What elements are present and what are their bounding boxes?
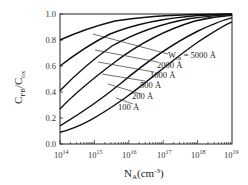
- x-axis-title: NA(cm-3): [124, 167, 164, 181]
- label-100A: 100 Å: [118, 102, 140, 112]
- x-tick-0: 1014: [54, 149, 69, 160]
- curve-labels: Wox = 5000 Å 2000 Å 1000 Å 500 Å 200 Å 1…: [118, 50, 217, 112]
- plot-frame: [60, 14, 232, 144]
- x-tick-5: 1019: [224, 149, 239, 160]
- label-500A: 500 Å: [140, 80, 162, 90]
- leader-500A: [102, 74, 145, 81]
- x-tick-1: 1015: [88, 149, 103, 160]
- x-axis-ticks: [60, 140, 230, 144]
- label-1000A: 1000 Å: [150, 70, 176, 80]
- label-200A: 200 Å: [132, 91, 154, 101]
- curve-100A: [60, 22, 232, 133]
- x-tick-3: 1017: [157, 149, 172, 160]
- curve-200A: [60, 18, 232, 126]
- capacitance-ratio-chart: 0.0 0.2 0.4 0.6 0.8 1.0 1014 1015 1016 1…: [0, 0, 248, 185]
- y-tick-labels: 0.0 0.2 0.4 0.6 0.8 1.0: [45, 9, 56, 149]
- x-tick-2: 1016: [122, 149, 137, 160]
- x-tick-4: 1018: [191, 149, 206, 160]
- curves: [60, 14, 232, 132]
- x-tick-labels: 1014 1015 1016 1017 1018 1019: [54, 149, 239, 160]
- label-2000A: 2000 Å: [157, 60, 183, 70]
- y-tick-3: 0.6: [45, 61, 56, 71]
- y-axis-title: CFB/Cox: [12, 70, 27, 104]
- y-tick-1: 0.2: [45, 113, 56, 123]
- y-tick-4: 0.8: [45, 35, 56, 45]
- y-tick-5: 1.0: [45, 9, 56, 19]
- y-tick-0: 0.0: [45, 139, 56, 149]
- leader-2000A: [95, 50, 158, 62]
- y-tick-2: 0.4: [45, 87, 56, 97]
